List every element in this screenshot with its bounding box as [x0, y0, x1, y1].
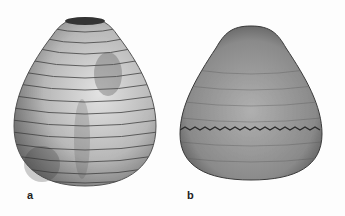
specimen-a: [10, 14, 160, 190]
figure: a b: [0, 0, 345, 216]
panel-label-b: b: [187, 189, 194, 201]
panel-label-a: a: [27, 189, 33, 201]
specimen-b: [176, 22, 326, 182]
